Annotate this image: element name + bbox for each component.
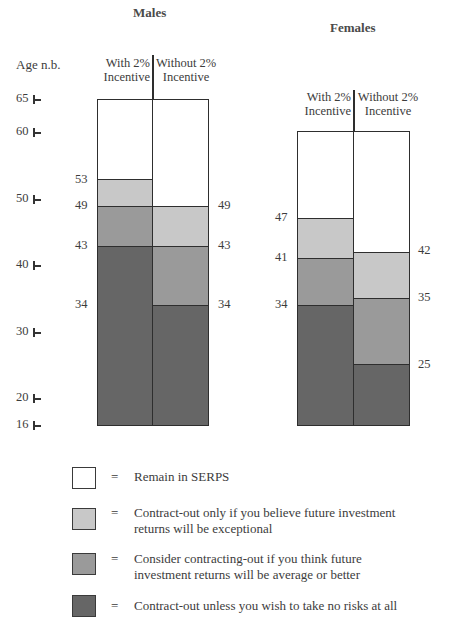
y-tick-65: 65: [16, 91, 29, 106]
males-with-exceptional-segment: [97, 179, 154, 207]
males-right-label-43: 43: [218, 238, 231, 253]
females-right-label-25: 25: [418, 357, 431, 372]
males-col1-header: With 2% Incentive: [96, 56, 150, 84]
y-tick-50: 50: [16, 191, 29, 206]
males-left-label-53: 53: [75, 172, 88, 187]
y-axis-label: Age n.b.: [16, 57, 60, 73]
y-tick-mark: [33, 265, 41, 267]
females-left-label-34: 34: [275, 297, 288, 312]
y-tick-mark: [33, 99, 41, 101]
females-without-serps-segment: [353, 131, 410, 253]
legend-label: Remain in SERPS: [134, 469, 451, 485]
males-panel-title: Males: [133, 5, 166, 21]
y-tick-20: 20: [16, 390, 29, 405]
y-tick-mark: [33, 425, 41, 427]
males-left-label-49: 49: [75, 198, 88, 213]
males-with-serps-segment: [97, 99, 154, 180]
females-with-norisk-segment: [297, 305, 355, 426]
females-col2-header: Without 2% Incentive: [357, 90, 419, 118]
legend-swatch-mid-gray: [72, 553, 96, 575]
males-without-serps-segment: [152, 99, 209, 207]
females-with-exceptional-segment: [297, 218, 355, 259]
y-tick-16: 16: [16, 417, 29, 432]
males-right-label-34: 34: [218, 297, 231, 312]
females-with-serps-segment: [297, 131, 355, 219]
legend-equals: =: [111, 598, 118, 614]
legend-equals: =: [111, 469, 118, 485]
females-left-label-47: 47: [275, 210, 288, 225]
y-tick-mark: [33, 199, 41, 201]
females-right-label-42: 42: [418, 243, 431, 258]
females-panel-title: Females: [330, 20, 375, 36]
legend-label: Consider contracting-out if you think fu…: [134, 551, 451, 583]
females-col1-header: With 2% Incentive: [296, 90, 351, 118]
y-tick-40: 40: [16, 257, 29, 272]
legend-label: Contract-out unless you wish to take no …: [134, 598, 451, 614]
females-header-divider: [353, 90, 355, 132]
y-tick-60: 60: [16, 124, 29, 139]
legend-label: Contract-out only if you believe future …: [134, 505, 451, 537]
males-left-label-43: 43: [75, 238, 88, 253]
females-left-label-41: 41: [275, 250, 288, 265]
females-without-average-segment: [353, 298, 410, 365]
males-without-exceptional-segment: [152, 206, 209, 247]
legend-swatch-light-gray: [72, 508, 96, 530]
legend-equals: =: [111, 551, 118, 567]
y-tick-30: 30: [16, 324, 29, 339]
males-without-norisk-segment: [152, 305, 209, 426]
females-right-label-35: 35: [418, 290, 431, 305]
males-with-norisk-segment: [97, 246, 154, 426]
males-header-divider: [152, 55, 154, 99]
y-tick-mark: [33, 398, 41, 400]
males-without-average-segment: [152, 246, 209, 306]
females-with-average-segment: [297, 258, 355, 306]
legend-swatch-dark-gray: [72, 595, 96, 617]
males-left-label-34: 34: [75, 297, 88, 312]
males-right-label-49: 49: [218, 198, 231, 213]
y-tick-mark: [33, 132, 41, 134]
males-col2-header: Without 2% Incentive: [156, 56, 216, 84]
males-with-average-segment: [97, 206, 154, 247]
legend-swatch-white: [72, 467, 96, 489]
legend-equals: =: [111, 505, 118, 521]
females-without-norisk-segment: [353, 364, 410, 426]
y-tick-mark: [33, 332, 41, 334]
females-without-exceptional-segment: [353, 252, 410, 299]
